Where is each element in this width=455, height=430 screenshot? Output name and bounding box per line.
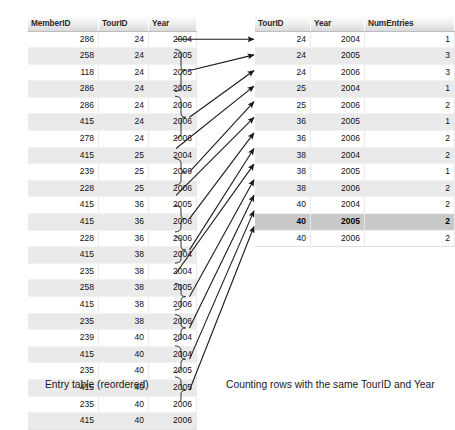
column-header-memberid[interactable]: MemberID [28,17,99,31]
group-arrow [190,195,255,328]
cell-memberid: 415 [28,247,99,264]
table-row[interactable]: 415252004 [28,147,197,164]
cell-memberid: 415 [28,197,99,214]
cell-tourid-agg: 36 [255,131,311,148]
column-header-tourid[interactable]: TourID [99,17,149,31]
cell-memberid: 239 [28,164,99,181]
cell-tourid: 24 [99,97,149,114]
table-row[interactable]: 239402004 [28,330,197,347]
cell-tourid: 40 [99,330,149,347]
cell-memberid: 415 [28,114,99,131]
cell-year: 2006 [149,297,197,314]
table-row[interactable]: 286242005 [28,81,197,98]
cell-year: 2004 [149,147,197,164]
table-row[interactable]: 228252006 [28,180,197,197]
table-row[interactable]: 3820042 [255,147,455,164]
cell-year: 2006 [149,97,197,114]
table-row[interactable]: 2420041 [255,31,455,48]
cell-memberid: 415 [28,413,99,430]
column-header-year-agg[interactable]: Year [311,17,365,31]
cell-year: 2006 [149,230,197,247]
table-row[interactable]: 3620062 [255,131,455,148]
table-row[interactable]: 4020042 [255,197,455,214]
table-row[interactable]: 286242004 [28,31,197,48]
cell-memberid: 415 [28,346,99,363]
cell-memberid: 286 [28,31,99,48]
table-row[interactable]: 278242006 [28,131,197,148]
cell-year: 2005 [149,363,197,380]
table-row[interactable]: 2420063 [255,64,455,81]
cell-year: 2006 [149,313,197,330]
aggregate-table-header-row: TourID Year NumEntries [255,17,455,31]
cell-tourid: 25 [99,147,149,164]
column-header-numentries[interactable]: NumEntries [365,17,455,31]
group-arrow [190,55,255,71]
table-row[interactable]: 118242005 [28,64,197,81]
table-row[interactable]: 2520062 [255,97,455,114]
table-row[interactable]: 415402004 [28,346,197,363]
cell-numentries: 2 [365,147,455,164]
group-arrow [190,102,255,172]
cell-tourid: 24 [99,114,149,131]
cell-tourid: 38 [99,313,149,330]
cell-numentries: 2 [365,230,455,247]
cell-year: 2005 [149,280,197,297]
cell-numentries: 3 [365,64,455,81]
table-row[interactable]: 4020052 [255,214,455,231]
cell-memberid: 415 [28,214,99,231]
cell-year: 2006 [149,396,197,413]
table-row[interactable]: 2420053 [255,48,455,65]
table-row[interactable]: 415362005 [28,197,197,214]
table-row[interactable]: 286242006 [28,97,197,114]
table-row[interactable]: 415382006 [28,297,197,314]
cell-year: 2006 [149,413,197,430]
cell-tourid-agg: 24 [255,31,311,48]
cell-year-agg: 2006 [311,180,365,197]
cell-numentries: 3 [365,48,455,65]
group-arrow [190,211,255,359]
table-row[interactable]: 4020062 [255,230,455,247]
table-row[interactable]: 258242005 [28,48,197,65]
table-row[interactable]: 235382006 [28,313,197,330]
cell-year: 2004 [149,346,197,363]
entry-table: MemberID TourID Year 2862420042582420051… [28,17,197,430]
table-row[interactable]: 258382005 [28,280,197,297]
cell-tourid: 40 [99,413,149,430]
cell-year-agg: 2005 [311,114,365,131]
group-arrow [190,71,255,118]
table-row[interactable]: 415362006 [28,214,197,231]
cell-year: 2004 [149,31,197,48]
cell-tourid: 24 [99,31,149,48]
entry-table-header-row: MemberID TourID Year [28,17,197,31]
table-row[interactable]: 239252006 [28,164,197,181]
cell-year-agg: 2006 [311,131,365,148]
column-header-tourid-agg[interactable]: TourID [255,17,311,31]
cell-tourid: 24 [99,48,149,65]
table-row[interactable]: 235402005 [28,363,197,380]
table-row[interactable]: 3820062 [255,180,455,197]
cell-year: 2005 [149,48,197,65]
cell-tourid: 38 [99,297,149,314]
table-row[interactable]: 415382004 [28,247,197,264]
group-arrow [190,180,255,297]
table-row[interactable]: 235402006 [28,396,197,413]
group-arrow [190,227,255,391]
cell-tourid-agg: 38 [255,164,311,181]
table-row[interactable]: 235382004 [28,263,197,280]
table-row[interactable]: 228362006 [28,230,197,247]
table-row[interactable]: 415402006 [28,413,197,430]
table-row[interactable]: 3620051 [255,114,455,131]
cell-tourid-agg: 36 [255,114,311,131]
table-row[interactable]: 3820051 [255,164,455,181]
cell-memberid: 258 [28,48,99,65]
cell-tourid: 38 [99,280,149,297]
column-header-year[interactable]: Year [149,17,197,31]
cell-year: 2006 [149,164,197,181]
table-row[interactable]: 415242006 [28,114,197,131]
table-row[interactable]: 2520041 [255,81,455,98]
cell-tourid-agg: 38 [255,147,311,164]
cell-year-agg: 2004 [311,197,365,214]
cell-numentries: 2 [365,180,455,197]
cell-tourid: 40 [99,396,149,413]
cell-year-agg: 2005 [311,214,365,231]
